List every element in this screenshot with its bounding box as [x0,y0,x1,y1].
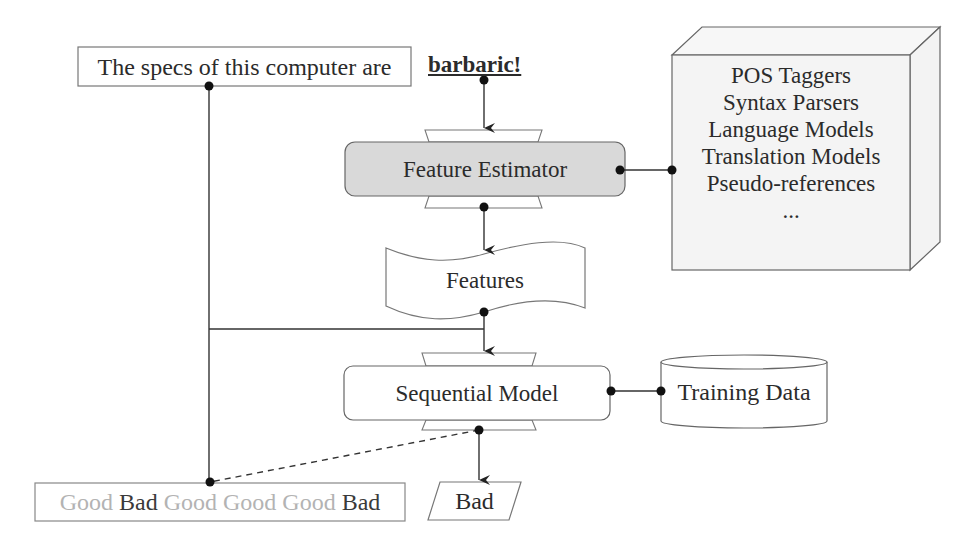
label-sequence: Good Bad Good Good Good Bad [35,483,405,521]
resource-item-ellipsis: ... [782,197,799,224]
label-token: Good [223,490,276,514]
resource-item: Pseudo-references [707,170,876,197]
label-token: Good [282,490,335,514]
training-data-label: Training Data [661,370,827,414]
resource-item: Language Models [708,116,873,143]
resource-item: Syntax Parsers [723,89,859,116]
feature-estimator-label: Feature Estimator [345,142,625,196]
output-label: Bad [428,482,521,520]
sequential-model-label: Sequential Model [344,366,610,420]
source-sentence-text: The specs of this computer are [78,47,411,86]
label-token: Bad [342,490,381,514]
label-token: Good [164,490,217,514]
label-token: Good [60,490,113,514]
features-label: Features [385,260,585,300]
resource-item: Translation Models [702,143,881,170]
resource-item: POS Taggers [731,62,851,89]
target-word-text: barbaric! [428,53,521,76]
resources-list: POS Taggers Syntax Parsers Language Mode… [672,62,910,224]
label-token: Bad [119,490,158,514]
